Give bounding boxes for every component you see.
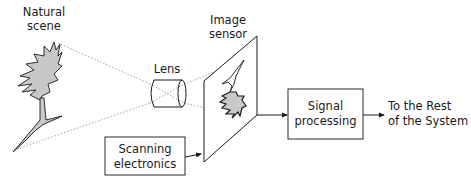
signal-label-line1: Signal [308,99,343,113]
scanning-label-line2: electronics [114,157,177,171]
signal-label-line2: processing [295,114,357,128]
lens-label: Lens [154,62,181,76]
scanning-to-sensor-arrow [185,154,201,157]
sensor-label-line1: Image [210,13,246,27]
scanning-label-line1: Scanning [118,142,171,156]
output-label-line2: of the System [388,114,468,128]
lens-icon [151,80,186,107]
tree-icon [13,42,62,152]
scene-label-line1: Natural [23,5,65,19]
sensor-label-line2: sensor [209,27,247,41]
image-acquisition-diagram: Natural scene Lens Image sensor Scanning… [0,0,471,186]
scene-label-line2: scene [27,19,61,33]
output-label-line1: To the Rest [387,99,452,113]
